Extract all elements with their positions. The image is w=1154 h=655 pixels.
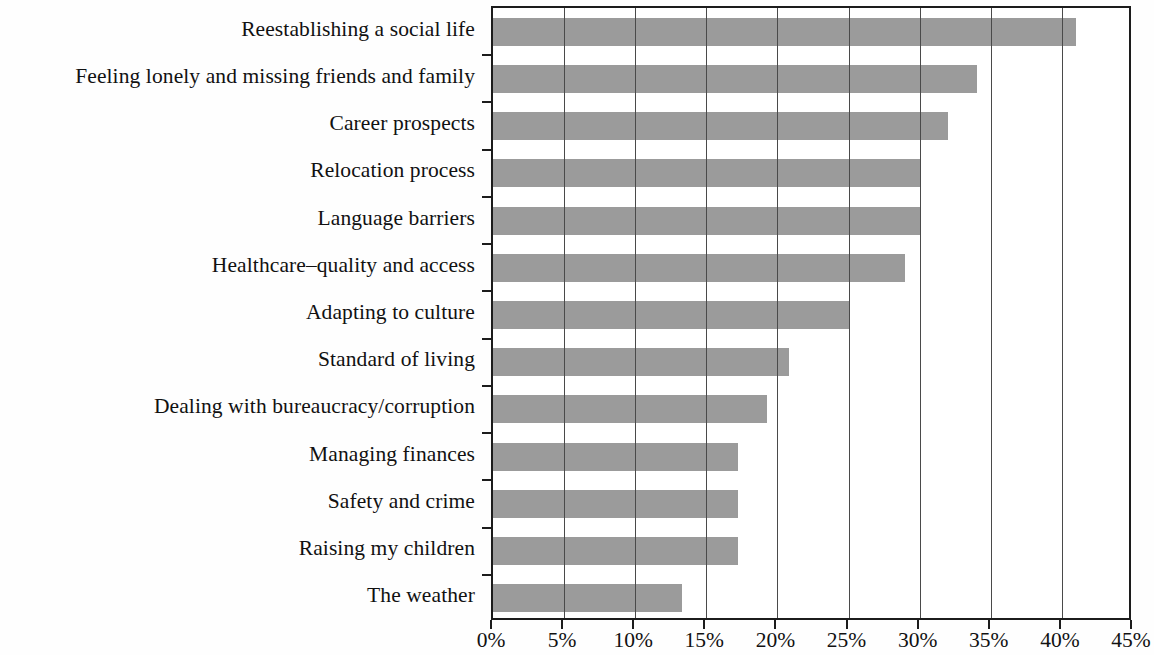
y-axis-tick [482, 54, 493, 56]
bar-chart: Reestablishing a social lifeFeeling lone… [0, 0, 1154, 655]
gridline [991, 8, 992, 618]
gridline [706, 8, 707, 618]
category-label: Reestablishing a social life [241, 19, 475, 41]
y-axis-tick [482, 196, 493, 198]
x-axis: 0%5%10%15%20%25%30%35%40%45% [491, 620, 1131, 655]
y-axis-tick [482, 290, 493, 292]
y-axis-tick [482, 574, 493, 576]
x-axis-tick-label: 35% [969, 629, 1008, 653]
plot-area [491, 6, 1131, 620]
category-label: Managing finances [309, 444, 475, 466]
gridlines-layer [493, 8, 1129, 618]
x-axis-tick-label: 10% [614, 629, 653, 653]
gridline [849, 8, 850, 618]
category-label: Safety and crime [328, 491, 475, 513]
category-label: Raising my children [299, 538, 475, 560]
x-axis-tick-label: 20% [756, 629, 795, 653]
category-axis-labels: Reestablishing a social lifeFeeling lone… [0, 6, 483, 620]
y-axis-tick [482, 243, 493, 245]
gridline [920, 8, 921, 618]
category-label: Healthcare–quality and access [212, 255, 475, 277]
y-axis-tick [482, 338, 493, 340]
x-axis-tick-label: 25% [827, 629, 866, 653]
category-label: The weather [367, 585, 475, 607]
x-axis-tick-label: 0% [477, 629, 506, 653]
category-label: Language barriers [318, 208, 476, 230]
category-label: Standard of living [318, 349, 475, 371]
x-axis-tick-label: 5% [548, 629, 577, 653]
y-axis-tick [482, 101, 493, 103]
y-axis-tick [482, 149, 493, 151]
category-label: Adapting to culture [306, 302, 475, 324]
y-axis-tick [482, 385, 493, 387]
category-label: Dealing with bureaucracy/corruption [154, 396, 475, 418]
gridline [1062, 8, 1063, 618]
gridline [777, 8, 778, 618]
x-axis-tick-label: 40% [1040, 629, 1079, 653]
gridline [635, 8, 636, 618]
category-label: Relocation process [310, 160, 475, 182]
x-axis-tick-label: 45% [1111, 629, 1150, 653]
gridline [564, 8, 565, 618]
x-axis-tick-label: 30% [898, 629, 937, 653]
y-axis-tick [482, 527, 493, 529]
category-label: Feeling lonely and missing friends and f… [75, 66, 475, 88]
category-label: Career prospects [330, 113, 475, 135]
y-axis-tick [482, 479, 493, 481]
x-axis-tick-label: 15% [685, 629, 724, 653]
y-axis-tick [482, 432, 493, 434]
